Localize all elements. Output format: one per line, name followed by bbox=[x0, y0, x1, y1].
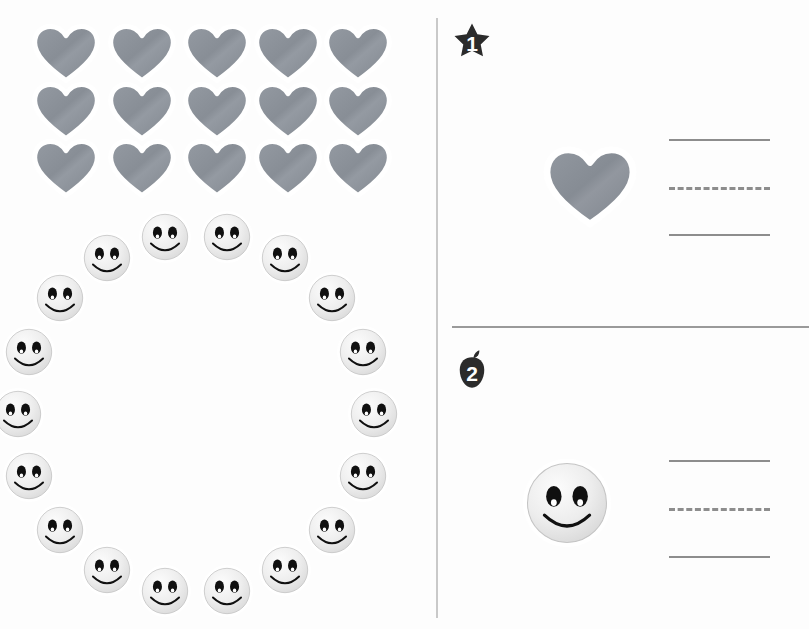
smiley-face-sticker bbox=[258, 543, 312, 597]
smiley-face-sticker bbox=[2, 325, 56, 379]
smiley-face-sticker bbox=[0, 387, 45, 441]
heart-sticker bbox=[30, 135, 102, 199]
smiley-face-sticker bbox=[33, 503, 87, 557]
heart-sticker bbox=[106, 20, 178, 84]
question-1-answer-line-3[interactable] bbox=[669, 234, 770, 236]
smiley-face-sticker bbox=[138, 210, 192, 264]
question-2-smiley-sample bbox=[520, 456, 614, 550]
heart-sticker bbox=[252, 78, 324, 142]
heart-sticker bbox=[181, 135, 253, 199]
question-2-answer-line-1[interactable] bbox=[669, 460, 770, 462]
smiley-face-sticker bbox=[336, 449, 390, 503]
heart-sticker bbox=[322, 78, 394, 142]
smiley-face-sticker bbox=[80, 543, 134, 597]
question-2-apple-badge: 2 bbox=[452, 349, 492, 389]
smiley-face-sticker bbox=[305, 271, 359, 325]
smiley-face-sticker bbox=[305, 503, 359, 557]
horizontal-divider bbox=[452, 326, 809, 328]
smiley-face-sticker bbox=[33, 271, 87, 325]
smiley-face-sticker bbox=[200, 564, 254, 618]
smiley-face-sticker bbox=[80, 231, 134, 285]
heart-sticker bbox=[252, 135, 324, 199]
worksheet-page: 1 2 bbox=[0, 0, 809, 629]
question-1-answer-line-2[interactable] bbox=[669, 187, 770, 190]
smiley-face-sticker bbox=[2, 449, 56, 503]
smiley-face-sticker bbox=[336, 325, 390, 379]
question-2-answer-line-2[interactable] bbox=[669, 508, 770, 511]
smiley-face-sticker bbox=[138, 564, 192, 618]
heart-sticker bbox=[181, 20, 253, 84]
smiley-face-sticker bbox=[347, 387, 401, 441]
heart-sticker bbox=[106, 78, 178, 142]
heart-sticker bbox=[252, 20, 324, 84]
question-1-star-badge: 1 bbox=[452, 22, 492, 62]
heart-sticker bbox=[30, 78, 102, 142]
question-1-answer-line-1[interactable] bbox=[669, 139, 770, 141]
heart-sticker bbox=[322, 20, 394, 84]
heart-sticker bbox=[322, 135, 394, 199]
smiley-face-sticker bbox=[258, 231, 312, 285]
heart-sticker bbox=[181, 78, 253, 142]
heart-sticker bbox=[30, 20, 102, 84]
question-1-heart-sample bbox=[541, 141, 639, 229]
question-2-answer-line-3[interactable] bbox=[669, 556, 770, 558]
vertical-divider bbox=[436, 18, 438, 618]
heart-sticker bbox=[106, 135, 178, 199]
smiley-face-sticker bbox=[200, 210, 254, 264]
